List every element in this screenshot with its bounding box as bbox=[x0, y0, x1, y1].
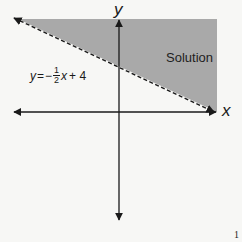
eq-const: + 4 bbox=[69, 69, 86, 83]
x-axis-label: x bbox=[222, 101, 231, 121]
graph-canvas bbox=[0, 0, 242, 242]
eq-var: x bbox=[61, 69, 67, 83]
solution-label: Solution bbox=[166, 50, 213, 65]
y-axis-label: y bbox=[114, 0, 123, 20]
eq-lhs: y bbox=[30, 69, 36, 83]
eq-equals: = bbox=[37, 69, 44, 83]
eq-denominator: 2 bbox=[54, 76, 59, 85]
eq-sign: − bbox=[45, 69, 52, 83]
page-mark: 1 bbox=[234, 229, 239, 240]
eq-fraction: 1 2 bbox=[53, 66, 60, 85]
equation-label: y = − 1 2 x + 4 bbox=[30, 66, 86, 85]
